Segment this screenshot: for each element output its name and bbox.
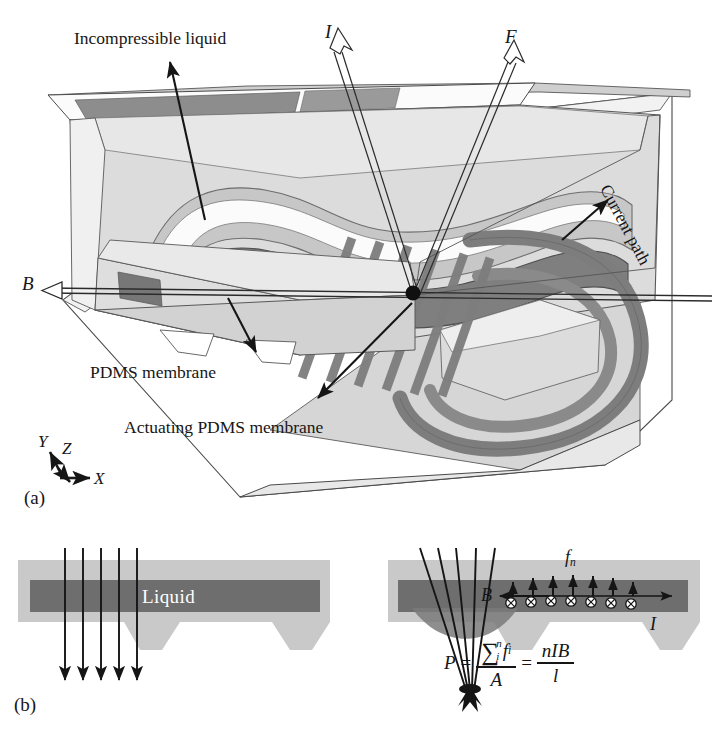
label-axis-y: Y bbox=[38, 433, 47, 450]
formula-fraction-1: ∑ n i fi A bbox=[476, 637, 516, 690]
label-force-fn-sub: n bbox=[570, 556, 576, 568]
label-axis-z: Z bbox=[62, 440, 71, 457]
pressure-formula: P = ∑ n i fi A = nIB l bbox=[444, 637, 574, 690]
label-force-fn: fn bbox=[565, 548, 576, 569]
formula-numerator-sum: ∑ n i fi bbox=[476, 637, 516, 664]
formula-sum-term-sub: i bbox=[508, 644, 511, 656]
formula-bar-1 bbox=[476, 666, 516, 668]
label-liquid-channel: Liquid bbox=[142, 587, 195, 606]
label-force-symbol-F: F bbox=[505, 27, 517, 46]
panel-b-left-schematic bbox=[18, 548, 330, 680]
formula-lhs: P bbox=[444, 652, 456, 674]
formula-equals-2: = bbox=[521, 652, 532, 674]
formula-equals-1: = bbox=[461, 652, 472, 674]
axis-z-arrow bbox=[58, 468, 70, 482]
label-pdms-membrane: PDMS membrane bbox=[90, 364, 216, 382]
panel-caption-b: (b) bbox=[14, 695, 36, 714]
formula-sum-symbol: ∑ bbox=[481, 641, 499, 662]
label-actuating-pdms-membrane: Actuating PDMS membrane bbox=[124, 419, 323, 437]
formula-denominator-2: l bbox=[548, 666, 563, 686]
label-current-symbol-I: I bbox=[325, 22, 331, 41]
formula-denominator-1: A bbox=[485, 670, 507, 690]
label-magnetic-field-B: B bbox=[22, 274, 34, 293]
panel-caption-a: (a) bbox=[24, 488, 45, 507]
figure-root: Incompressible liquid I F B Current path… bbox=[0, 0, 717, 738]
formula-bar-2 bbox=[537, 662, 574, 664]
convergence-point bbox=[406, 286, 421, 301]
label-axis-x: X bbox=[94, 470, 104, 487]
label-i-right-panel: I bbox=[650, 615, 656, 633]
formula-numerator-2: nIB bbox=[537, 641, 574, 661]
label-b-right-panel: B bbox=[481, 586, 492, 604]
formula-fraction-2: nIB l bbox=[537, 641, 574, 686]
label-incompressible-liquid: Incompressible liquid bbox=[74, 30, 226, 48]
